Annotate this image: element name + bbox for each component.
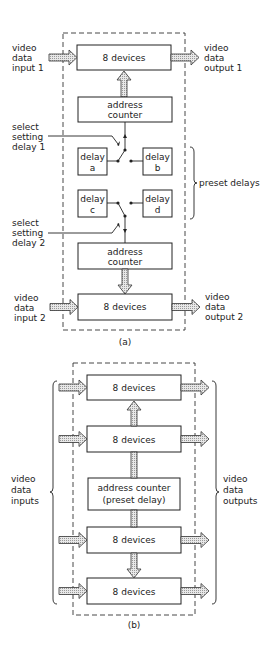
select-2-label-1: select: [12, 218, 39, 228]
input-2-label-1: video: [14, 293, 39, 303]
figure-a: 8 devices video data input 1 video data …: [12, 33, 260, 347]
b-devices-3-label: 8 devices: [113, 535, 156, 545]
output-1-label-3: output 1: [204, 63, 242, 73]
b-devices-3: 8 devices: [87, 527, 181, 553]
input-1-label-1: video: [12, 43, 37, 53]
up-arrow-icon: [117, 71, 131, 97]
b-inputs-brace: [50, 381, 57, 604]
bottom-devices-block: 8 devices: [78, 294, 172, 320]
b-inputs-label-2: data: [11, 485, 31, 495]
output-2-label-2: data: [205, 302, 225, 312]
delay-architecture-diagram: 8 devices video data input 1 video data …: [0, 0, 266, 659]
input-2-label-3: input 2: [14, 313, 46, 323]
select-2-leader: [48, 225, 118, 233]
switch-2-lever: [118, 203, 125, 216]
address-counter-2-label-1: address: [107, 247, 143, 257]
preset-delays-label: preset delays: [199, 178, 260, 188]
input-2-arrow-icon: [50, 300, 78, 315]
b-outputs-brace: [212, 381, 219, 604]
output-1-label-1: video: [204, 43, 229, 53]
delay-d-block: delay d: [143, 190, 172, 217]
output-2-arrow-icon: [172, 300, 200, 315]
b-outputs-label-2: data: [223, 485, 243, 495]
b-devices-4-label: 8 devices: [113, 587, 156, 597]
delay-d-label-2: d: [155, 205, 161, 215]
delay-b-label-1: delay: [145, 152, 170, 162]
input-2-label-2: data: [14, 303, 34, 313]
delay-b-block: delay b: [143, 148, 172, 175]
output-1-label-2: data: [204, 53, 224, 63]
address-counter-1: address counter: [78, 97, 172, 122]
delay-a-label-2: a: [90, 163, 96, 173]
b-devices-1-label: 8 devices: [113, 383, 156, 393]
switch-2-arrowhead-icon: [123, 229, 127, 233]
address-counter-1-label-1: address: [107, 100, 143, 110]
b-devices-2: 8 devices: [87, 426, 181, 452]
delay-a-label-1: delay: [80, 152, 105, 162]
select-1-leader: [48, 136, 118, 144]
select-1-label-2: setting: [12, 132, 43, 142]
b-outputs-label-3: outputs: [223, 496, 258, 506]
output-1-arrow-icon: [171, 50, 199, 65]
delay-d-label-1: delay: [145, 194, 170, 204]
b-output-arrow-1-icon: [181, 380, 209, 395]
b-bus-2: [131, 510, 137, 527]
down-arrow-icon: [118, 269, 132, 294]
switch-1-lever: [118, 150, 125, 161]
b-down-arrow-icon: [127, 553, 141, 578]
input-1-label-3: input 1: [12, 63, 44, 73]
address-counter-2-label-2: counter: [108, 257, 143, 267]
figure-b: 8 devices 8 devices address counter (pre…: [11, 363, 258, 630]
delay-c-label-1: delay: [80, 194, 105, 204]
input-1-label-2: data: [12, 53, 32, 63]
delay-b-label-2: b: [155, 163, 161, 173]
b-inputs-label-1: video: [11, 474, 36, 484]
b-devices-2-label: 8 devices: [113, 435, 156, 445]
delay-c-block: delay c: [78, 190, 107, 217]
preset-delays-brace: [190, 147, 197, 219]
b-bus-1: [131, 452, 137, 478]
b-address-counter-label-1: address counter: [98, 483, 171, 493]
delay-a-block: delay a: [78, 148, 107, 175]
output-2-label-3: output 2: [205, 312, 243, 322]
top-devices-label: 8 devices: [103, 53, 146, 63]
b-devices-4: 8 devices: [87, 578, 181, 604]
address-counter-1-label-2: counter: [108, 110, 143, 120]
b-devices-1: 8 devices: [87, 375, 181, 400]
figure-b-caption: (b): [128, 620, 141, 630]
select-2-label-2: setting: [12, 228, 43, 238]
b-inputs-label-3: inputs: [11, 496, 39, 506]
b-up-arrow-1-icon: [127, 401, 141, 426]
output-2-label-1: video: [205, 292, 230, 302]
b-address-counter: address counter (preset delay): [88, 478, 180, 510]
top-devices-block: 8 devices: [77, 45, 171, 70]
select-1-label-1: select: [12, 122, 39, 132]
figure-a-caption: (a): [119, 337, 132, 347]
select-1-label-3: delay 1: [12, 142, 45, 152]
address-counter-2: address counter: [78, 243, 172, 269]
delay-c-label-2: c: [90, 205, 95, 215]
b-outputs-label-1: video: [223, 474, 248, 484]
bottom-devices-label: 8 devices: [104, 302, 147, 312]
b-address-counter-label-2: (preset delay): [103, 495, 166, 505]
switch-1-arrowhead-icon: [123, 134, 127, 138]
select-2-label-3: delay 2: [12, 238, 45, 248]
